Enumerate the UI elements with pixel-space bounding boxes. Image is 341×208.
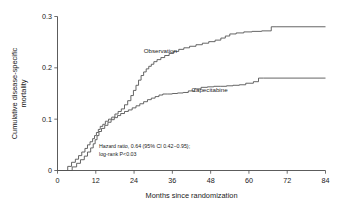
x-tick-label: 72 bbox=[283, 176, 291, 185]
x-axis-title: Months since randomization bbox=[145, 191, 237, 200]
y-tick-label: 0 bbox=[48, 166, 52, 175]
y-tick-label-group: 00.10.20.3 bbox=[42, 12, 52, 175]
statistics-annotation-line1: Hazard ratio, 0.64 (95% CI 0.42−0.95); bbox=[99, 143, 190, 149]
axes-group bbox=[54, 17, 325, 174]
kaplan-meier-figure: 012243648607284 00.10.20.3 Months since … bbox=[0, 0, 341, 208]
series-line-observation bbox=[58, 27, 326, 171]
x-tick-label: 0 bbox=[56, 176, 60, 185]
y-axis-title-line2: mortality bbox=[19, 79, 28, 107]
x-axis-ticks bbox=[58, 171, 326, 174]
y-axis-title-line1: Cumulative disease-specific bbox=[10, 47, 19, 139]
y-axis-ticks bbox=[54, 17, 57, 171]
x-tick-label: 12 bbox=[92, 176, 100, 185]
y-tick-label: 0.2 bbox=[42, 63, 52, 72]
chart-canvas: 012243648607284 00.10.20.3 Months since … bbox=[0, 0, 341, 208]
x-tick-label: 24 bbox=[130, 176, 138, 185]
x-tick-label: 60 bbox=[245, 176, 253, 185]
curves-group bbox=[58, 27, 326, 171]
y-tick-label: 0.3 bbox=[42, 12, 52, 21]
series-label-observation: Observation bbox=[144, 47, 178, 54]
statistics-annotation-line2: log-rank P<0.03 bbox=[99, 151, 137, 157]
x-tick-label: 48 bbox=[207, 176, 215, 185]
x-tick-label: 36 bbox=[168, 176, 176, 185]
x-tick-label: 84 bbox=[322, 176, 330, 185]
y-tick-label: 0.1 bbox=[42, 115, 52, 124]
x-tick-label-group: 012243648607284 bbox=[56, 176, 330, 185]
series-label-capecitabine: Capecitabine bbox=[192, 86, 229, 93]
